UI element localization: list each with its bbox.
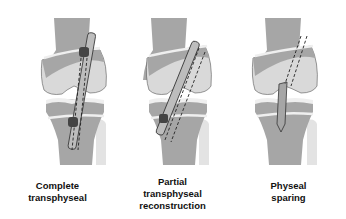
- panel-complete-transphyseal: Complete transphyseal: [0, 0, 115, 219]
- panel-physeal-sparing: Physeal sparing: [231, 0, 346, 219]
- panel-partial-transphyseal: Partial transphyseal reconstruction: [115, 0, 230, 219]
- caption-line-1: Partial: [115, 176, 230, 188]
- caption-line-2: transphyseal: [0, 192, 115, 204]
- caption-line-2: sparing: [231, 192, 346, 204]
- caption-line-3: reconstruction: [115, 200, 230, 212]
- tibial-fixation: [159, 114, 168, 123]
- femoral-fixation: [79, 47, 89, 57]
- caption-line-1: Physeal: [231, 180, 346, 192]
- caption-line-1: Complete: [0, 180, 115, 192]
- caption-line-2: transphyseal: [115, 188, 230, 200]
- tibial-fixation: [68, 117, 78, 127]
